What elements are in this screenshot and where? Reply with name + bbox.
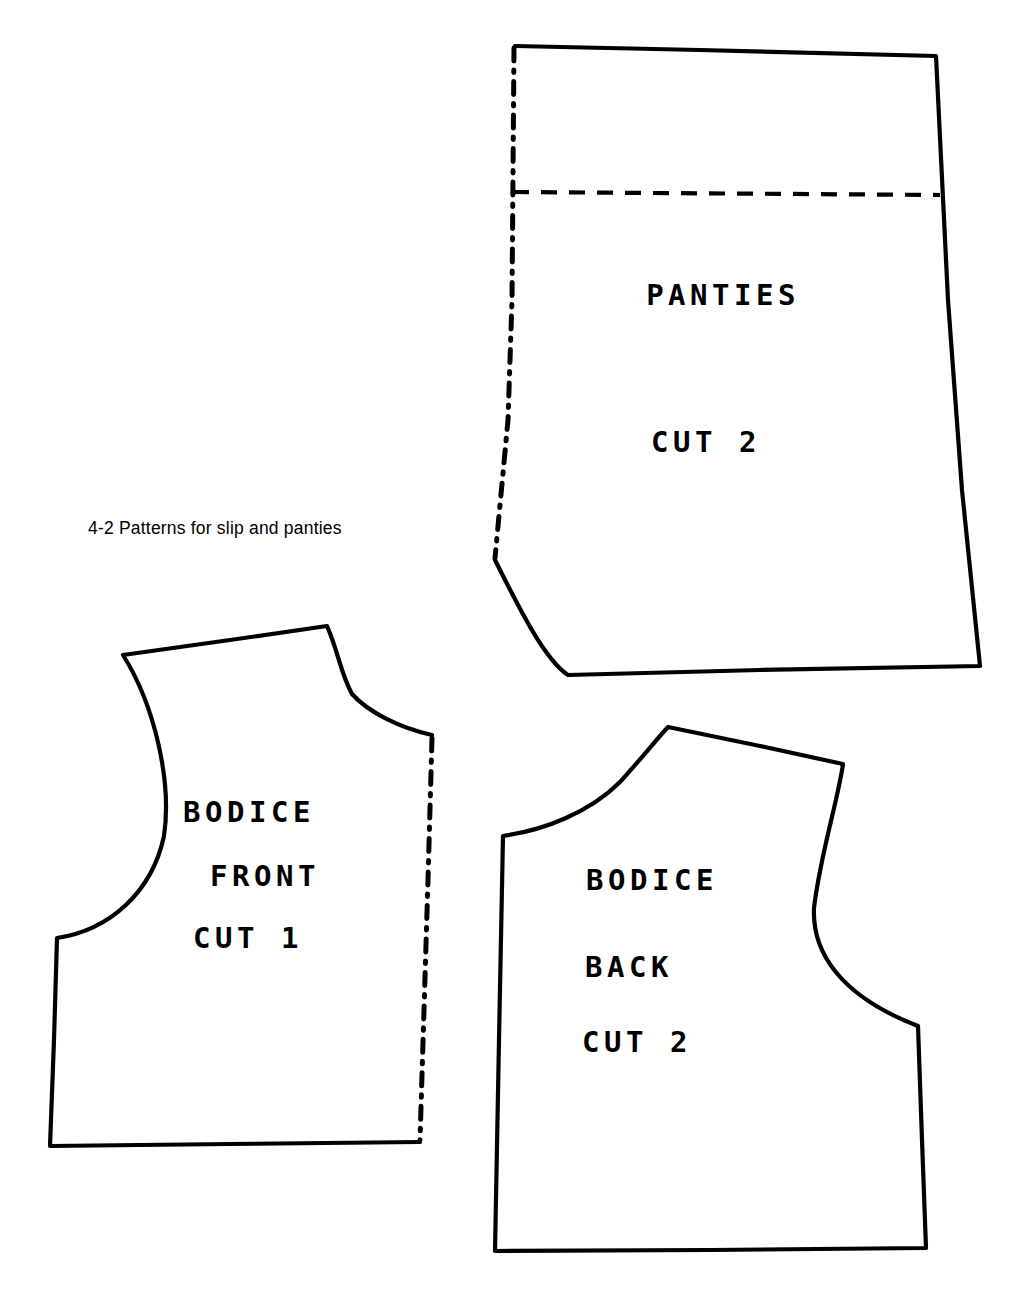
bodice-back-label-part: BACK — [585, 950, 673, 984]
bodice-back-label-name: BODICE — [586, 863, 718, 897]
panties-outline — [495, 46, 980, 675]
pattern-diagram: PANTIES CUT 2 BODICE FRONT CUT 1 BODICE … — [0, 0, 1032, 1312]
panties-fold-line — [495, 48, 514, 558]
pattern-sheet: PANTIES CUT 2 BODICE FRONT CUT 1 BODICE … — [0, 0, 1032, 1312]
figure-caption: 4-2 Patterns for slip and panties — [88, 518, 342, 539]
panties-dashed-guide-line — [513, 192, 940, 195]
bodice-back-label-quantity: CUT 2 — [582, 1025, 692, 1059]
pattern-piece-bodice-back: BODICE BACK CUT 2 — [495, 727, 926, 1251]
panties-label-quantity: CUT 2 — [651, 425, 761, 459]
panties-label-name: PANTIES — [646, 278, 800, 312]
bodice-front-label-part: FRONT — [210, 859, 320, 893]
bodice-back-outline — [495, 727, 926, 1251]
pattern-piece-bodice-front: BODICE FRONT CUT 1 — [50, 626, 432, 1146]
bodice-front-fold-line — [420, 738, 432, 1140]
bodice-front-label-name: BODICE — [183, 795, 315, 829]
pattern-piece-panties: PANTIES CUT 2 — [495, 46, 980, 675]
bodice-front-label-quantity: CUT 1 — [193, 921, 303, 955]
